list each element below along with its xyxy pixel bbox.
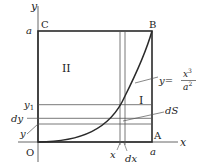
y1-tick-label: y1 — [23, 99, 34, 112]
diagram-canvas: y x O C B A a a x dx y1 dy y II I dS y= … — [0, 0, 207, 168]
dS-label: dS — [165, 105, 178, 116]
a-y-tick-label: a — [26, 25, 32, 36]
x-tick-label: x — [110, 149, 116, 160]
dx-tick-leader — [124, 143, 127, 151]
dy-tick-label: dy — [11, 113, 23, 124]
curve-equation-denominator: a2 — [183, 80, 192, 92]
dS-leader — [123, 112, 164, 121]
point-B-label: B — [149, 19, 156, 30]
y-leader — [27, 124, 38, 134]
curve-equation-lhs: y= — [158, 75, 173, 86]
cubic-curve — [38, 31, 152, 142]
x-tick-leader — [117, 143, 120, 150]
curve-leader — [135, 77, 158, 83]
point-C-label: C — [41, 19, 49, 30]
region-I-label: I — [139, 94, 143, 107]
dx-tick-label: dx — [125, 153, 137, 164]
a-x-tick-label: a — [150, 146, 156, 157]
y-tick-label: y — [19, 128, 26, 139]
region-II-label: II — [62, 62, 71, 75]
x-axis-label: x — [180, 136, 187, 149]
origin-label: O — [26, 147, 34, 158]
square-OABC — [38, 31, 152, 142]
curve-equation-numerator: x3 — [183, 67, 192, 79]
point-A-label: A — [153, 130, 162, 141]
y-axis-label: y — [30, 0, 38, 13]
